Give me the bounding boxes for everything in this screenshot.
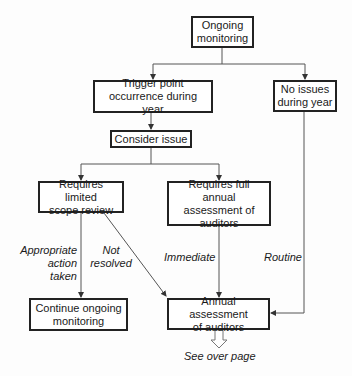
node-label: Consider issue	[115, 133, 188, 146]
node-no-issues: No issues during year	[273, 80, 337, 112]
label-appropriate-action: Appropriate action taken	[19, 244, 77, 283]
node-consider-issue: Consider issue	[110, 130, 192, 148]
label-not-resolved: Not resolved	[90, 244, 132, 270]
node-label: Continue ongoing monitoring	[35, 302, 121, 328]
node-limited-scope: Requires limited scope review	[38, 181, 124, 213]
node-label: No issues during year	[277, 83, 332, 109]
node-continue-monitoring: Continue ongoing monitoring	[29, 298, 128, 331]
flowchart-canvas: Ongoing monitoring Trigger point occurre…	[0, 0, 352, 376]
label-immediate: Immediate	[164, 251, 215, 264]
node-label: Requires full annual assessment of audit…	[171, 178, 267, 230]
label-see-over-page: See over page	[184, 350, 256, 363]
node-trigger-point: Trigger point occurrence during year	[93, 80, 213, 113]
node-label: Requires limited scope review	[42, 178, 120, 217]
node-label: Trigger point occurrence during year	[97, 77, 209, 116]
node-annual-assessment: Annual assessment of auditors	[167, 298, 270, 330]
label-routine: Routine	[264, 251, 302, 264]
node-full-annual: Requires full annual assessment of audit…	[167, 181, 271, 226]
node-label: Ongoing monitoring	[197, 19, 248, 45]
node-ongoing-monitoring: Ongoing monitoring	[191, 16, 254, 48]
node-label: Annual assessment of auditors	[171, 295, 266, 334]
